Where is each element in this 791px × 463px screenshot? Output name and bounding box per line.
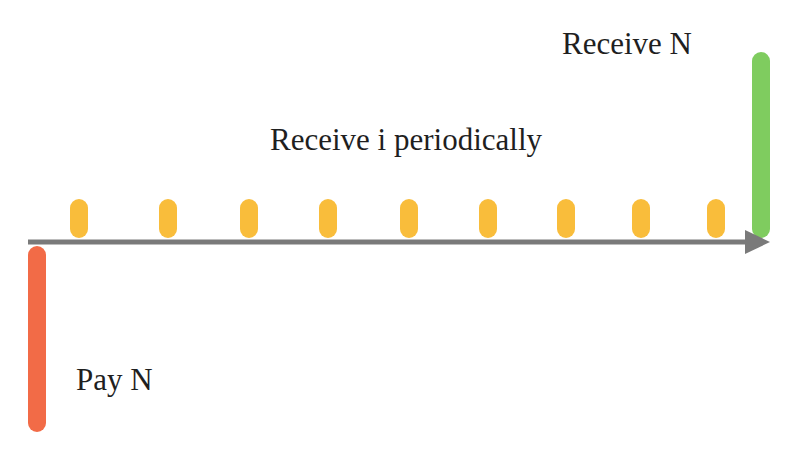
receive-interest-label: Receive i periodically — [270, 122, 542, 158]
pay-principal-bar — [28, 246, 46, 432]
pay-principal-label: Pay N — [76, 362, 153, 398]
receive-principal-bar — [752, 52, 770, 238]
interest-payment-bar — [240, 199, 258, 238]
interest-payment-bar — [159, 199, 177, 238]
receive-principal-label: Receive N — [562, 26, 692, 62]
interest-payment-bar — [707, 199, 725, 238]
interest-payment-bar — [479, 199, 497, 238]
interest-payment-bar — [70, 199, 88, 238]
interest-payment-bar — [319, 199, 337, 238]
cash-flow-diagram: Receive N Receive i periodically Pay N — [0, 0, 791, 463]
interest-payment-bars — [70, 199, 725, 238]
interest-payment-bar — [632, 199, 650, 238]
interest-payment-bar — [557, 199, 575, 238]
interest-payment-bar — [400, 199, 418, 238]
